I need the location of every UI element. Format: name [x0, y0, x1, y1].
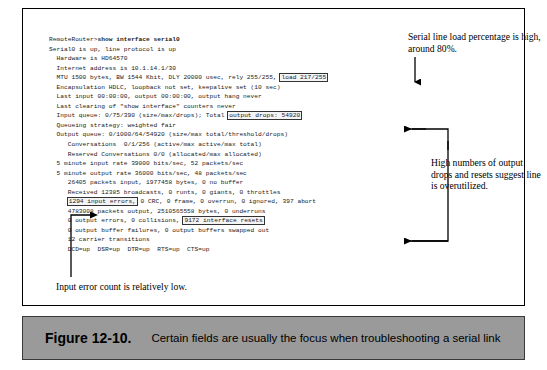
terminal-line: Last clearing of "show interface" counte…: [49, 102, 327, 112]
figure-image-area: RemoteRouter>show interface serial0Seria…: [22, 8, 525, 306]
terminal-line: 1294 input errors, 0 CRC, 0 frame, 0 ove…: [49, 197, 327, 207]
figure-caption-text: Certain fields are usually the focus whe…: [151, 332, 500, 344]
terminal-line: 26405 packets input, 1977458 bytes, 0 no…: [49, 178, 327, 188]
terminal-line: Encapsulation HDLC, loopback not set, ke…: [49, 83, 327, 93]
terminal-line: DCD=up DSR=up DTR=up RTS=up CTS=up: [49, 245, 327, 255]
callout-output-drops: High numbers of output drops and resets …: [431, 157, 541, 192]
terminal-line: Input queue: 0/75/390 (size/max/drops); …: [49, 111, 327, 121]
terminal-line: Output queue: 0/1000/64/54920 (size/max …: [49, 130, 327, 140]
highlighted-field: 9172 interface resets: [182, 216, 264, 225]
figure-caption-number: Figure 12-10.: [45, 330, 131, 346]
callout-input-errors: Input error count is relatively low.: [56, 281, 296, 293]
highlighted-field: 1294 input errors,: [67, 197, 138, 206]
terminal-text: 0 output errors, 0 collisions,: [49, 217, 183, 224]
highlighted-field: output drops: 54920: [227, 111, 302, 120]
terminal-line: 0 output buffer failures, 0 output buffe…: [49, 226, 327, 236]
terminal-line: 5 minute input rate 39000 bits/sec, 52 p…: [49, 159, 327, 169]
terminal-line: 5 minute output rate 36000 bits/sec, 48 …: [49, 169, 327, 179]
terminal-command-line: RemoteRouter>show interface serial0: [49, 35, 327, 45]
terminal-line: 4783008 packets output, 2510565558 bytes…: [49, 207, 327, 217]
callout-load-percentage: Serial line load percentage is high, aro…: [408, 31, 547, 54]
terminal-line: 12 carrier transitions: [49, 235, 327, 245]
terminal-line: MTU 1500 bytes, BW 1544 Kbit, DLY 20000 …: [49, 73, 327, 83]
terminal-prompt: RemoteRouter>: [49, 36, 98, 43]
terminal-text: Input queue: 0/75/390 (size/max/drops); …: [49, 112, 228, 119]
terminal-line: Internet address is 10.1.14.1/30: [49, 64, 327, 74]
terminal-line: Last input 00:00:00, output 00:00:00, ou…: [49, 92, 327, 102]
terminal-command: show interface serial0: [98, 36, 180, 43]
terminal-line: Serial0 is up, line protocol is up: [49, 45, 327, 55]
terminal-text: [49, 198, 68, 205]
terminal-line: Hardware is HD64570: [49, 54, 327, 64]
figure-caption-bar: Figure 12-10. Certain fields are usually…: [22, 316, 525, 360]
terminal-text: MTU 1500 bytes, BW 1544 Kbit, DLY 20000 …: [49, 74, 280, 81]
terminal-line: Queueing strategy: weighted fair: [49, 121, 327, 131]
terminal-line: Received 12385 broadcasts, 0 runts, 0 gi…: [49, 188, 327, 198]
highlighted-field: load 217/255: [279, 73, 328, 82]
terminal-line: Conversations 0/1/256 (active/max active…: [49, 140, 327, 150]
terminal-line: Reserved Conversations 0/0 (allocated/ma…: [49, 150, 327, 160]
terminal-line: 0 output errors, 0 collisions, 9172 inte…: [49, 216, 327, 226]
terminal-output: RemoteRouter>show interface serial0Seria…: [49, 35, 327, 255]
figure-container: RemoteRouter>show interface serial0Seria…: [22, 8, 525, 360]
terminal-text: 0 CRC, 0 frame, 0 overrun, 0 ignored, 39…: [137, 198, 316, 205]
